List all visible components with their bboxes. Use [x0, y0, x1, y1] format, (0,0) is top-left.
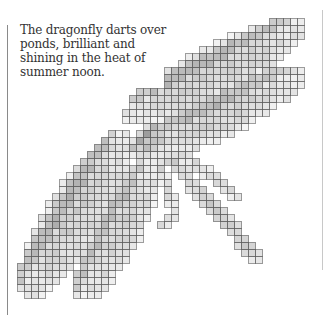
mosaic-cell — [38, 291, 46, 299]
mosaic-cell — [213, 137, 221, 145]
mosaic-cell — [164, 221, 172, 229]
mosaic-cell — [192, 144, 200, 152]
mosaic-cell — [143, 214, 151, 222]
mosaic-cell — [129, 242, 137, 250]
poem-caption: The dragonfly darts over ponds, brillian… — [20, 23, 160, 79]
caption-line: shining in the heat of — [20, 51, 160, 65]
mosaic-cell — [101, 284, 109, 292]
mosaic-cell — [122, 256, 130, 264]
mosaic-cell — [108, 277, 116, 285]
mosaic-cell — [297, 81, 305, 89]
mosaic-cell — [150, 200, 158, 208]
mosaic-cell — [227, 130, 235, 138]
mosaic-cell — [59, 270, 67, 278]
mosaic-cell — [94, 291, 102, 299]
mosaic-cell — [45, 284, 53, 292]
mosaic-cell — [276, 53, 284, 61]
mosaic-cell — [248, 116, 256, 124]
mosaic-cell — [269, 102, 277, 110]
mosaic-cell — [283, 95, 291, 103]
mosaic-cell — [171, 214, 179, 222]
mosaic-cell — [234, 193, 242, 201]
caption-line: ponds, brilliant and — [20, 37, 160, 51]
caption-line: summer noon. — [20, 65, 160, 79]
mosaic-cell — [136, 235, 144, 243]
mosaic-cell — [290, 88, 298, 96]
mosaic-cell — [52, 277, 60, 285]
caption-line: The dragonfly darts over — [20, 23, 160, 37]
mosaic-cell — [297, 32, 305, 40]
mosaic-cell — [283, 46, 291, 54]
mosaic-cell — [115, 263, 123, 271]
mosaic-cell — [255, 256, 263, 264]
mosaic-cell — [241, 123, 249, 131]
mosaic-cell — [290, 39, 298, 47]
mosaic-cell — [262, 109, 270, 117]
